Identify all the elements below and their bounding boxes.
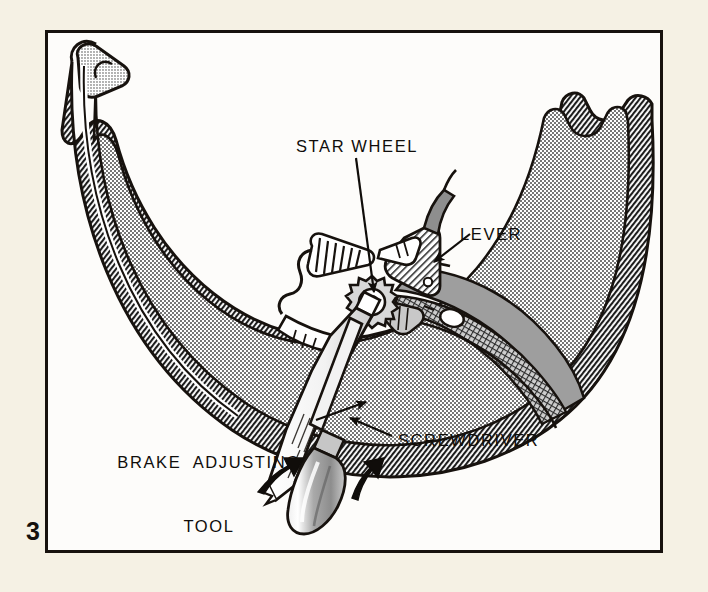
label-brake-adjusting-tool: BRAKE ADJUSTING TOOL <box>104 410 314 579</box>
label-star-wheel: STAR WHEEL <box>296 136 418 157</box>
label-screwdriver: SCREWDRIVER <box>398 430 539 451</box>
figure-number: 3 <box>26 519 40 544</box>
label-lever: LEVER <box>460 224 522 245</box>
label-brake-adjusting-tool-line2: TOOL <box>104 516 314 537</box>
label-brake-adjusting-tool-line1: BRAKE ADJUSTING <box>104 452 314 473</box>
figure-container: 3 <box>0 0 708 592</box>
